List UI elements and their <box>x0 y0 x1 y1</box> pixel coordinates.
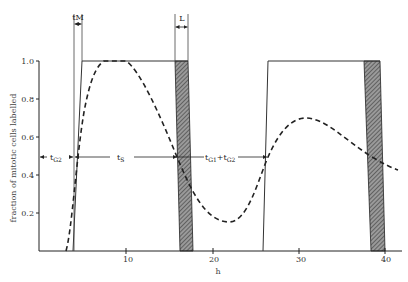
y-axis-label: fraction of mitotic cells labelled <box>9 94 18 223</box>
y-tick-0-8: 0.8 <box>21 95 34 104</box>
x-tick-30: 30 <box>296 255 306 264</box>
cell-cycle-labelled-mitoses-chart: 1.0 0.8 0.6 0.4 0.2 10 20 30 40 h fracti… <box>0 0 408 282</box>
l-band-2 <box>364 61 385 251</box>
x-tick-20: 20 <box>209 255 219 264</box>
y-tick-0-4: 0.4 <box>21 171 34 180</box>
x-tick-40: 40 <box>381 255 391 264</box>
y-tick-0-6: 0.6 <box>21 133 34 142</box>
x-tick-10: 10 <box>123 255 133 264</box>
y-tick-0-2: 0.2 <box>21 209 34 218</box>
tm-label: tM <box>72 13 83 22</box>
ideal-wave-2 <box>263 61 380 251</box>
l-band-1 <box>175 61 193 251</box>
x-axis-label: h <box>215 267 220 276</box>
l-label: L <box>179 14 185 23</box>
y-tick-1-0: 1.0 <box>21 57 34 66</box>
